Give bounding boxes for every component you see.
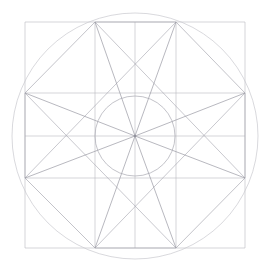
center-dot bbox=[134, 135, 136, 137]
geometric-figure-canvas bbox=[0, 0, 268, 273]
construction-drawing bbox=[0, 0, 268, 273]
center-point bbox=[134, 135, 136, 137]
